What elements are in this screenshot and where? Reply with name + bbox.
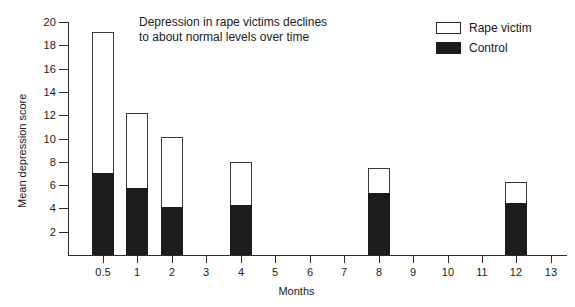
chart-title-line-2: to about normal levels over time	[139, 30, 419, 45]
bar-control-month-8	[368, 193, 390, 255]
x-tick-label: 13	[531, 266, 571, 278]
y-tick-label: 10	[16, 134, 56, 145]
legend-swatch-rape-victim-icon	[436, 22, 461, 34]
x-tick-label: 7	[324, 266, 364, 278]
bar-control-month-4	[230, 205, 252, 255]
x-tick-mark	[172, 256, 173, 263]
legend-item-control: Control	[436, 40, 568, 60]
bar-rape-victim-month-2	[161, 137, 183, 255]
y-tick-label: 16	[16, 64, 56, 75]
y-tick-label: 18	[16, 40, 56, 51]
y-tick-mark	[59, 185, 68, 186]
x-tick-mark	[344, 256, 345, 263]
y-tick-label: 14	[16, 87, 56, 98]
y-tick-label: 20	[16, 17, 56, 28]
x-tick-label: 9	[393, 266, 433, 278]
x-tick-mark	[241, 256, 242, 263]
y-tick-mark	[59, 45, 68, 46]
legend-swatch-control-icon	[436, 42, 461, 54]
x-tick-mark	[551, 256, 552, 263]
chart-title-line-1: Depression in rape victims declines	[139, 15, 419, 30]
x-tick-mark	[275, 256, 276, 263]
y-tick-mark	[59, 69, 68, 70]
depression-bar-chart: Mean depression score Months Depression …	[0, 0, 575, 307]
y-tick-mark	[59, 115, 68, 116]
bar-rape-victim-month-0.5	[92, 32, 114, 255]
y-tick-mark	[59, 22, 68, 23]
chart-title: Depression in rape victims declines to a…	[139, 15, 419, 45]
legend: Rape victim Control	[436, 20, 568, 60]
y-tick-mark	[59, 139, 68, 140]
y-tick-label: 6	[16, 180, 56, 191]
y-tick-mark	[59, 232, 68, 233]
bar-control-month-12	[505, 203, 527, 255]
x-tick-mark	[206, 256, 207, 263]
y-tick-mark	[59, 208, 68, 209]
bar-control-month-2	[161, 207, 183, 255]
x-tick-mark	[310, 256, 311, 263]
legend-item-rape-victim: Rape victim	[436, 20, 568, 40]
x-tick-label: 3	[186, 266, 226, 278]
y-tick-label: 12	[16, 110, 56, 121]
x-tick-mark	[516, 256, 517, 263]
bar-rape-victim-month-4	[230, 162, 252, 255]
y-tick-label: 2	[16, 227, 56, 238]
x-tick-mark	[103, 256, 104, 263]
y-axis-title: Mean depression score	[2, 0, 14, 60]
y-axis-line	[68, 22, 69, 256]
bar-rape-victim-month-8	[368, 168, 390, 255]
x-tick-mark	[413, 256, 414, 263]
x-tick-mark	[137, 256, 138, 263]
y-tick-label: 4	[16, 203, 56, 214]
x-tick-mark	[379, 256, 380, 263]
x-tick-label: 1	[117, 266, 157, 278]
legend-label-control: Control	[469, 40, 508, 56]
bar-rape-victim-month-1	[126, 113, 148, 255]
bar-control-month-0.5	[92, 173, 114, 255]
bar-control-month-1	[126, 188, 148, 255]
legend-label-rape-victim: Rape victim	[469, 20, 532, 36]
x-axis-title: Months	[0, 285, 575, 297]
y-tick-mark	[59, 162, 68, 163]
x-tick-mark	[448, 256, 449, 263]
x-tick-label: 5	[255, 266, 295, 278]
x-tick-label: 12	[496, 266, 536, 278]
y-tick-label: 8	[16, 157, 56, 168]
y-tick-mark	[59, 92, 68, 93]
x-axis-line	[68, 255, 567, 256]
bar-rape-victim-month-12	[505, 182, 527, 255]
x-tick-mark	[482, 256, 483, 263]
